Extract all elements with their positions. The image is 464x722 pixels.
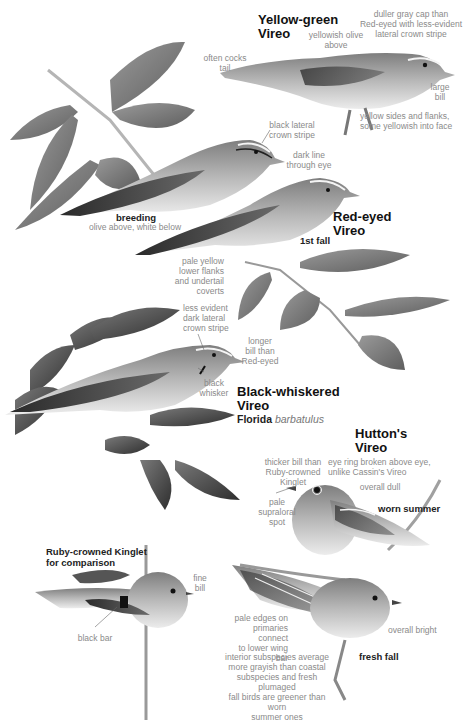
label-supraloral: pale supraloral spot	[258, 497, 296, 527]
label-interior-subspecies: interior subspecies average more grayish…	[225, 652, 329, 722]
plumage-fresh-fall: fresh fall	[359, 651, 399, 662]
subspecies-label: Florida barbatulus	[237, 413, 324, 425]
label-thicker-bill: thicker bill than Ruby-crowned Kinglet	[258, 457, 328, 487]
label-less-evident: less evident dark lateral crown stripe	[183, 303, 243, 333]
label-black-bar: black bar	[70, 633, 120, 643]
label-tail: often cocks tail	[200, 53, 250, 73]
plumage-first-fall: 1st fall	[300, 235, 330, 246]
label-black-whisker: black whisker	[196, 378, 232, 398]
subspecies-region: Florida	[237, 413, 272, 425]
label-olive-above: olive above, white below	[80, 222, 190, 232]
black-whiskered-vireo-illustration	[5, 308, 245, 511]
label-cap: duller gray cap than Red-eyed with less-…	[358, 9, 464, 39]
red-eyed-vireo-title: Red-eyed Vireo	[333, 210, 392, 238]
label-overall-bright: overall bright	[388, 625, 458, 635]
label-eye-ring: eye ring broken above eye, unlike Cassin…	[328, 457, 464, 477]
black-whiskered-vireo-title: Black-whiskered Vireo	[237, 385, 340, 413]
subspecies-name: barbatulus	[275, 413, 324, 425]
label-pale-yellow: pale yellow lower flanks and undertail c…	[170, 256, 224, 296]
label-overall-dull: overall dull	[350, 482, 410, 492]
kinglet-title: Ruby-crowned Kinglet for comparison	[46, 546, 147, 568]
label-black-lateral: black lateral crown stripe	[262, 120, 322, 140]
label-sides: yellow sides and flanks, some yellowish …	[360, 111, 464, 131]
label-fine-bill: fine bill	[190, 573, 210, 593]
label-above: yellowish olive above	[308, 30, 364, 50]
plumage-worn-summer: worn summer	[378, 503, 440, 514]
label-large-bill: large bill	[425, 82, 455, 102]
huttons-vireo-title: Hutton's Vireo	[355, 427, 407, 455]
label-dark-line: dark line through eye	[284, 150, 334, 170]
label-longer-bill: longer bill than Red-eyed	[235, 336, 285, 366]
